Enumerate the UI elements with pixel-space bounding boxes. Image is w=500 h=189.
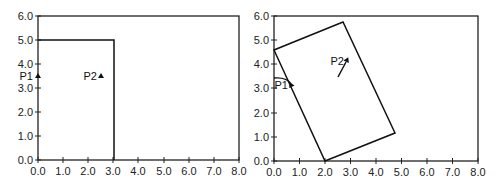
svg-text:0.0: 0.0: [266, 166, 281, 178]
right-p1-label: P1: [275, 79, 288, 91]
left-y-tick-labels: 6.0 5.0 4.0 3.0 2.0 1.0 0.0: [18, 10, 33, 166]
left-plot-frame: [38, 16, 239, 160]
svg-text:7.0: 7.0: [206, 165, 221, 177]
right-chart: 6.0 5.0 4.0 3.0 2.0 1.0 0.0 0.0 1.0 2.0 …: [254, 10, 486, 178]
svg-text:2.0: 2.0: [80, 165, 95, 177]
svg-text:1.0: 1.0: [292, 166, 307, 178]
svg-text:1.0: 1.0: [18, 130, 33, 142]
right-y-tick-labels: 6.0 5.0 4.0 3.0 2.0 1.0 0.0: [254, 10, 269, 167]
left-x-tick-labels: 0.0 1.0 2.0 3.0 4.0 5.0 6.0 7.0 8.0: [30, 165, 246, 177]
svg-text:2.0: 2.0: [18, 106, 33, 118]
svg-text:6.0: 6.0: [18, 10, 33, 22]
left-rectangle: [38, 40, 114, 160]
svg-text:1.0: 1.0: [254, 131, 269, 143]
svg-text:6.0: 6.0: [419, 166, 434, 178]
svg-text:3.0: 3.0: [18, 82, 33, 94]
svg-text:6.0: 6.0: [181, 165, 196, 177]
svg-text:3.0: 3.0: [105, 165, 120, 177]
right-p2-marker-icon: [343, 56, 351, 63]
right-x-tick-labels: 0.0 1.0 2.0 3.0 4.0 5.0 6.0 7.0 8.0: [266, 166, 485, 178]
svg-text:8.0: 8.0: [470, 166, 485, 178]
left-p1-marker-icon: [35, 73, 41, 78]
svg-text:1.0: 1.0: [55, 165, 70, 177]
svg-text:4.0: 4.0: [368, 166, 383, 178]
left-p2-marker-icon: [98, 73, 104, 78]
svg-text:5.0: 5.0: [254, 34, 269, 46]
svg-text:5.0: 5.0: [394, 166, 409, 178]
svg-text:2.0: 2.0: [254, 107, 269, 119]
left-p1-label: P1: [20, 70, 33, 82]
right-rotated-rectangle: [274, 22, 395, 161]
svg-text:4.0: 4.0: [254, 58, 269, 70]
svg-text:7.0: 7.0: [445, 166, 460, 178]
svg-text:2.0: 2.0: [317, 166, 332, 178]
svg-text:5.0: 5.0: [156, 165, 171, 177]
svg-text:3.0: 3.0: [343, 166, 358, 178]
svg-text:0.0: 0.0: [30, 165, 45, 177]
svg-text:3.0: 3.0: [254, 82, 269, 94]
svg-text:5.0: 5.0: [18, 34, 33, 46]
svg-text:8.0: 8.0: [231, 165, 246, 177]
svg-text:4.0: 4.0: [130, 165, 145, 177]
right-p2-label: P2: [331, 55, 344, 67]
figure: 6.0 5.0 4.0 3.0 2.0 1.0 0.0 0.0 1.0 2.0 …: [0, 0, 500, 189]
left-chart: 6.0 5.0 4.0 3.0 2.0 1.0 0.0 0.0 1.0 2.0 …: [18, 10, 247, 177]
svg-text:6.0: 6.0: [254, 10, 269, 22]
svg-text:4.0: 4.0: [18, 58, 33, 70]
left-p2-label: P2: [84, 70, 97, 82]
